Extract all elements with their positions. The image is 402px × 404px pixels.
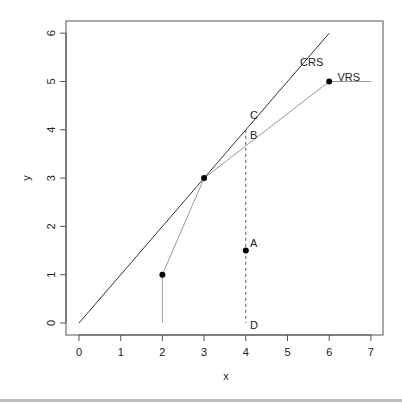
y-tick-label: 6 xyxy=(45,30,57,36)
data-point xyxy=(243,248,249,254)
y-tick-label: 3 xyxy=(45,175,57,181)
plot-frame xyxy=(66,21,383,335)
series-layer xyxy=(79,33,371,323)
annotation-vrs: VRS xyxy=(338,71,361,83)
data-point xyxy=(201,175,207,181)
x-tick-label: 1 xyxy=(118,346,124,358)
x-tick-label: 6 xyxy=(326,346,332,358)
x-tick-label: 4 xyxy=(243,346,249,358)
x-tick-label: 5 xyxy=(284,346,290,358)
annotation-b: B xyxy=(250,129,257,141)
y-tick-label: 4 xyxy=(45,127,57,133)
y-tick-label: 0 xyxy=(45,320,57,326)
x-tick-label: 2 xyxy=(159,346,165,358)
annotations: CRSVRSCBAD xyxy=(250,56,360,331)
x-axis: 01234567 xyxy=(76,335,374,358)
x-axis-title: x xyxy=(223,370,229,382)
vrs-line xyxy=(162,82,371,324)
y-axis: 0123456 xyxy=(45,30,66,326)
data-point xyxy=(159,272,165,278)
annotation-c: C xyxy=(250,109,258,121)
x-tick-label: 0 xyxy=(76,346,82,358)
x-tick-label: 3 xyxy=(201,346,207,358)
data-point xyxy=(326,79,332,85)
annotation-d: D xyxy=(250,319,258,331)
chart: 01234567 0123456 CRSVRSCBAD x y xyxy=(0,0,402,404)
y-axis-title: y xyxy=(20,175,32,181)
bottom-divider xyxy=(0,399,402,402)
annotation-crs: CRS xyxy=(300,56,323,68)
y-tick-label: 1 xyxy=(45,272,57,278)
y-tick-label: 2 xyxy=(45,223,57,229)
annotation-a: A xyxy=(250,237,258,249)
x-tick-label: 7 xyxy=(368,346,374,358)
y-tick-label: 5 xyxy=(45,78,57,84)
